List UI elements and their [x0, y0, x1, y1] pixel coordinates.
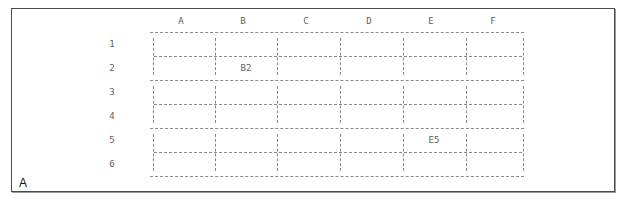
column-header-d: D	[359, 15, 379, 27]
grid-line-block-1	[150, 80, 524, 81]
row-header-4: 4	[106, 110, 118, 122]
column-header-b: B	[233, 15, 253, 27]
column-separator	[153, 134, 154, 171]
column-separator	[277, 38, 278, 75]
column-separator	[215, 134, 216, 171]
column-separator	[215, 38, 216, 75]
column-separator	[523, 86, 524, 123]
column-separator	[340, 134, 341, 171]
grid-line-block-2	[150, 128, 524, 129]
column-separator	[277, 86, 278, 123]
column-separator	[523, 134, 524, 171]
column-separator	[340, 38, 341, 75]
row-header-3: 3	[106, 86, 118, 98]
row-header-2: 2	[106, 62, 118, 74]
grid-line-bottom	[150, 176, 524, 177]
column-header-a: A	[171, 15, 191, 27]
grid-line-top	[150, 32, 524, 33]
column-separator	[153, 86, 154, 123]
column-separator	[466, 86, 467, 123]
column-header-f: F	[483, 15, 503, 27]
column-separator	[403, 86, 404, 123]
cell-label-b2: B2	[226, 62, 266, 74]
row-header-6: 6	[106, 158, 118, 170]
cell-label-e5: E5	[414, 134, 454, 146]
column-separator	[153, 38, 154, 75]
row-header-1: 1	[106, 38, 118, 50]
column-header-c: C	[296, 15, 316, 27]
row-header-5: 5	[106, 134, 118, 146]
column-separator	[340, 86, 341, 123]
column-separator	[403, 134, 404, 171]
column-separator	[523, 38, 524, 75]
column-header-e: E	[421, 15, 441, 27]
column-separator	[277, 134, 278, 171]
column-separator	[403, 38, 404, 75]
column-separator	[466, 38, 467, 75]
column-separator	[215, 86, 216, 123]
panel-label: A	[19, 177, 27, 189]
column-separator	[466, 134, 467, 171]
figure-frame	[11, 8, 615, 192]
